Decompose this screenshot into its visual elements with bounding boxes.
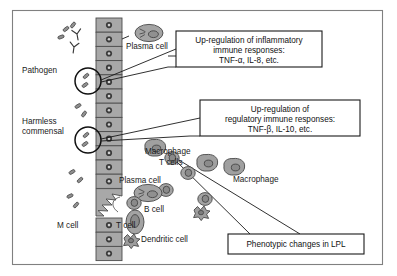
label-dendritic-cell: Dendritic cell <box>141 235 188 244</box>
label-t-cells: T cells <box>159 158 183 167</box>
label-macrophage-right: Macrophage <box>233 175 279 184</box>
label-m-cell: M cell <box>57 221 79 230</box>
label-harmless-line2: commensal <box>22 127 64 136</box>
label-b-cell: B cell <box>144 205 164 214</box>
label-pathogen: Pathogen <box>22 66 58 75</box>
callout-regulatory-line3: TNF-β, IL-10, etc. <box>248 125 312 134</box>
callout-regulatory-line1: Up-regulation of <box>251 105 310 114</box>
label-t-cell: T cell <box>116 221 136 230</box>
callout-regulatory-line2: regulatory immune responses: <box>225 115 335 124</box>
label-plasma-cell-low: Plasma cell <box>119 176 161 185</box>
macrophage-right-shape <box>197 154 218 171</box>
callout-inflammatory-line3: TNF-α, IL-8, etc. <box>219 56 279 65</box>
callout-phenotypic-line1: Phenotypic changes in LPL <box>246 240 346 249</box>
plasma-cell-top-shape <box>135 24 163 41</box>
t-cell-2 <box>181 167 195 180</box>
callout-box-inflammatory[interactable]: Up-regulation of inflammatory immune res… <box>176 31 322 67</box>
macrophage-far-right-shape <box>224 158 245 175</box>
callout-inflammatory-line2: immune responses: <box>213 46 284 55</box>
label-macrophage-left: Macrophage <box>145 147 191 156</box>
label-harmless-line1: Harmless <box>22 117 57 126</box>
immunology-diagram: Up-regulation of inflammatory immune res… <box>0 0 397 276</box>
t-cell-4 <box>198 193 212 206</box>
label-plasma-cell-top: Plasma cell <box>126 42 168 51</box>
callout-box-phenotypic[interactable]: Phenotypic changes in LPL <box>228 234 364 254</box>
b-cell-shape <box>127 197 141 210</box>
figure-container: Up-regulation of inflammatory immune res… <box>0 0 397 276</box>
callout-inflammatory-line1: Up-regulation of inflammatory <box>195 36 303 45</box>
callout-box-regulatory[interactable]: Up-regulation of regulatory immune respo… <box>200 100 360 136</box>
